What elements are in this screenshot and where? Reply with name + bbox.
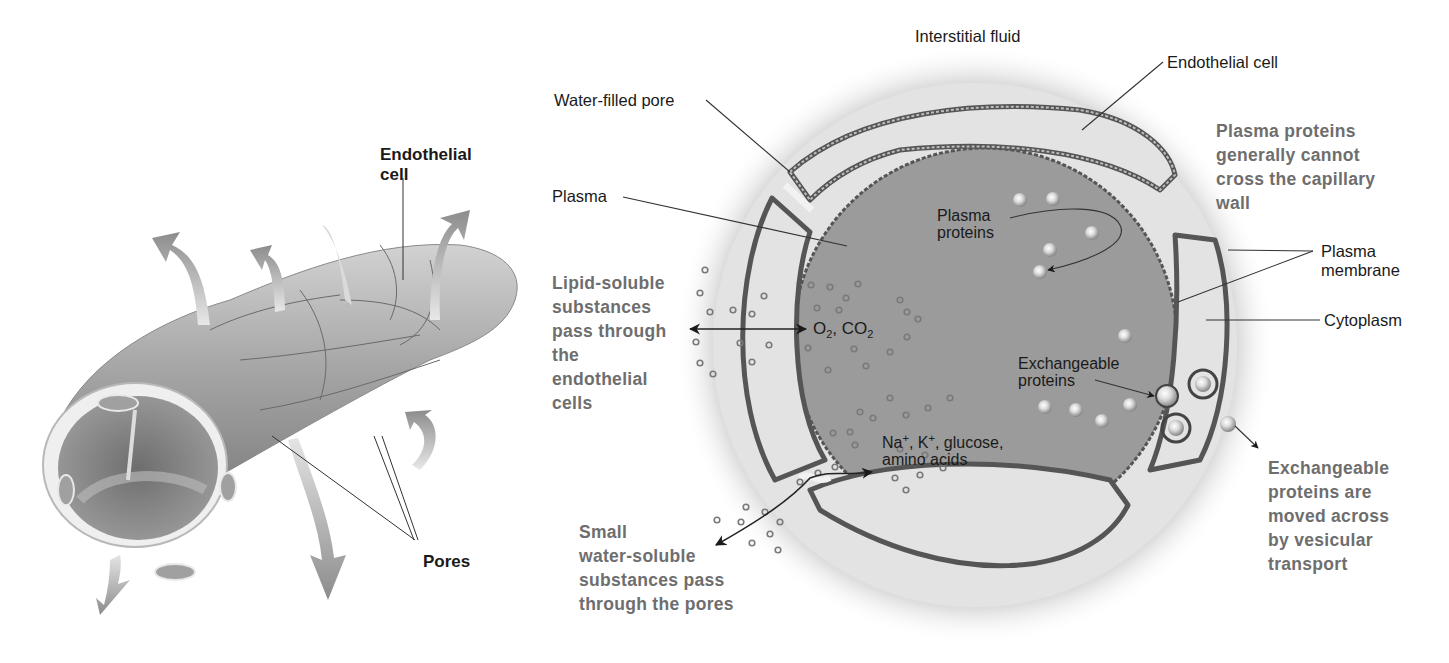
capillary-tube-illustration: [43, 178, 517, 615]
vesicular-transport-note: Exchangeable proteins are moved across b…: [1268, 456, 1389, 576]
plasma-membrane-label: Plasma membrane: [1321, 242, 1400, 280]
plasma-label: Plasma: [552, 187, 607, 206]
note-line: wall: [1216, 191, 1375, 215]
small-water-soluble-note: Small water-soluble substances pass thro…: [579, 520, 734, 616]
note-line: Plasma proteins: [1216, 119, 1375, 143]
note-line: generally cannot: [1216, 143, 1375, 167]
label-line: Plasma: [1321, 242, 1400, 261]
pores-label: Pores: [423, 552, 470, 572]
note-line: proteins are: [1268, 480, 1389, 504]
note-line: pass through: [552, 319, 666, 343]
gases-label: O2, CO2: [813, 319, 873, 344]
note-line: Exchangeable: [1268, 456, 1389, 480]
label-line: membrane: [1321, 261, 1400, 280]
water-filled-pore-label: Water-filled pore: [554, 91, 674, 110]
k-symbol: K: [918, 434, 929, 451]
note-line: by vesicular: [1268, 528, 1389, 552]
plasma-proteins-note: Plasma proteins generally cannot cross t…: [1216, 119, 1375, 215]
lipid-soluble-note: Lipid-soluble substances pass through th…: [552, 271, 666, 415]
note-line: endothelial: [552, 367, 666, 391]
o2-symbol: O: [813, 319, 826, 338]
note-line: water-soluble: [579, 544, 734, 568]
note-line: Small: [579, 520, 734, 544]
label-line: Endothelial: [380, 145, 472, 165]
note-line: transport: [1268, 552, 1389, 576]
interstitial-fluid-label: Interstitial fluid: [915, 27, 1020, 46]
cytoplasm-label: Cytoplasm: [1324, 311, 1402, 330]
amino-acids-text: amino acids: [882, 451, 1003, 468]
exchangeable-proteins-label: Exchangeable proteins: [1018, 355, 1119, 389]
label-line: proteins: [1018, 372, 1119, 389]
co2-symbol: CO: [842, 319, 868, 338]
endothelial-cell-label: Endothelial cell: [1167, 53, 1278, 72]
glucose-text: , glucose,: [935, 434, 1003, 451]
co2-subscript: 2: [867, 328, 873, 340]
note-line: moved across: [1268, 504, 1389, 528]
plasma-proteins-label: Plasma proteins: [937, 207, 994, 241]
note-line: the: [552, 343, 666, 367]
note-line: cells: [552, 391, 666, 415]
separator: ,: [832, 319, 841, 338]
note-line: through the pores: [579, 592, 734, 616]
label-line: cell: [380, 165, 472, 185]
na-symbol: Na: [882, 434, 902, 451]
note-line: cross the capillary: [1216, 167, 1375, 191]
note-line: substances: [552, 295, 666, 319]
ions-line-1: Na+, K+, glucose,: [882, 430, 1003, 451]
label-line: Plasma: [937, 207, 994, 224]
separator: ,: [909, 434, 918, 451]
ions-nutrients-label: Na+, K+, glucose, amino acids: [882, 430, 1003, 468]
note-line: Lipid-soluble: [552, 271, 666, 295]
endothelial-cell-label-left: Endothelial cell: [380, 145, 472, 185]
note-line: substances pass: [579, 568, 734, 592]
capillary-exchange-figure: Endothelial cell Pores Interstitial flui…: [0, 0, 1449, 663]
label-line: Exchangeable: [1018, 355, 1119, 372]
label-line: proteins: [937, 224, 994, 241]
